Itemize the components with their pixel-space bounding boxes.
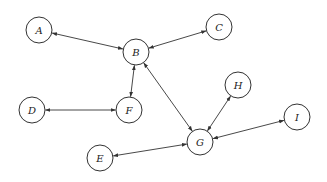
edge-b-f: [131, 65, 135, 96]
node-c: C: [206, 14, 232, 40]
node-f: F: [116, 97, 142, 123]
edge-a-b: [52, 33, 123, 49]
node-label: B: [131, 47, 139, 58]
node-e: E: [87, 145, 113, 171]
node-a: A: [26, 17, 52, 43]
node-label: D: [27, 105, 36, 116]
node-label: C: [215, 22, 223, 33]
node-h: H: [225, 72, 251, 98]
edge-h-g: [208, 96, 231, 131]
node-g: G: [187, 129, 213, 155]
node-d: D: [19, 97, 45, 123]
edge-b-g: [144, 63, 192, 131]
node-label: A: [34, 25, 42, 36]
edge-b-c: [149, 31, 206, 48]
node-label: E: [95, 153, 104, 164]
node-i: I: [284, 104, 310, 130]
node-label: F: [125, 105, 134, 116]
graph-canvas: ABCDFEGHI: [0, 0, 327, 182]
edge-e-g: [113, 144, 186, 156]
node-b: B: [123, 39, 149, 65]
graph-diagram: ABCDFEGHI: [0, 0, 327, 182]
node-label: H: [233, 80, 243, 91]
edge-i-g: [213, 120, 284, 138]
node-label: G: [196, 137, 204, 148]
